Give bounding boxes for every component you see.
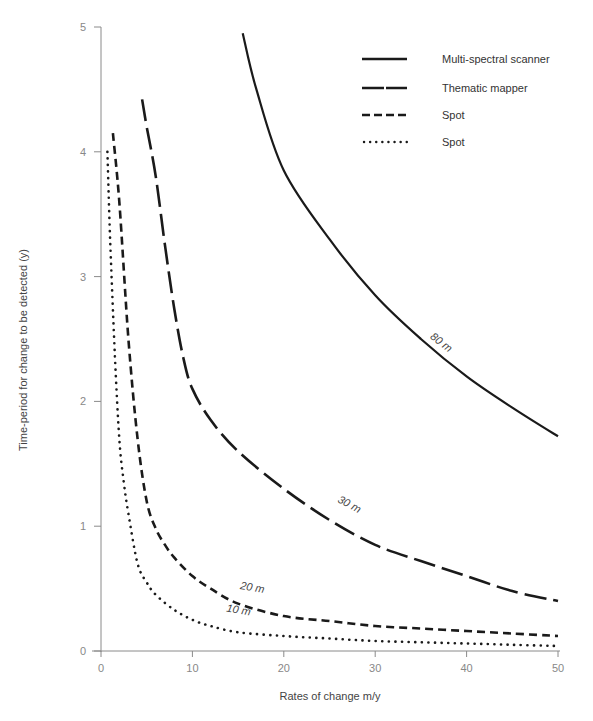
y-tick-label: 4 (80, 146, 86, 158)
x-tick-label: 0 (98, 662, 104, 674)
legend-item-spot-10m: Spot (364, 136, 465, 148)
x-ticks: 01020304050 (98, 651, 564, 674)
legend: Multi-spectral scanner Thematic mapper S… (362, 53, 550, 148)
legend-label: Thematic mapper (442, 82, 528, 94)
series-10m-dotted (107, 152, 558, 646)
x-axis-title: Rates of change m/y (280, 690, 381, 702)
y-tick-label: 3 (80, 271, 86, 283)
x-tick-label: 30 (369, 662, 381, 674)
x-tick-label: 40 (460, 662, 472, 674)
series-30m-long-dash (142, 99, 558, 601)
series-20m-short-dash (113, 133, 558, 636)
series-layer (107, 33, 558, 646)
y-tick-label: 0 (80, 645, 86, 657)
axes: 01020304050 012345 (80, 21, 564, 674)
legend-item-multi-spectral-scanner: Multi-spectral scanner (362, 53, 550, 65)
annotation-layer: 80 m30 m20 m10 m (226, 330, 455, 618)
y-ticks: 012345 (80, 21, 101, 657)
curve-label: 10 m (226, 602, 252, 618)
curve-label: 20 m (238, 579, 265, 595)
legend-label: Spot (442, 109, 465, 121)
legend-label: Multi-spectral scanner (442, 53, 550, 65)
chart: 01020304050 012345 Rates of change m/y T… (0, 0, 593, 721)
curve-label: 30 m (336, 493, 363, 515)
y-tick-label: 5 (80, 21, 86, 33)
x-tick-label: 50 (552, 662, 564, 674)
legend-item-thematic-mapper: Thematic mapper (362, 82, 528, 94)
curve-label: 80 m (428, 330, 455, 355)
legend-label: Spot (442, 136, 465, 148)
y-tick-label: 2 (80, 395, 86, 407)
x-tick-label: 20 (278, 662, 290, 674)
y-tick-label: 1 (80, 520, 86, 532)
legend-item-spot-20m: Spot (362, 109, 465, 121)
x-tick-label: 10 (186, 662, 198, 674)
y-axis-title: Time-period for change to be detected (y… (17, 249, 29, 451)
